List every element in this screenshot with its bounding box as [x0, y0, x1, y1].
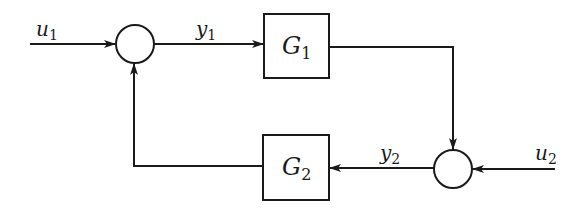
block-g1: G1 — [264, 14, 329, 78]
y1-label: y1 — [195, 17, 216, 43]
block-g2: G2 — [263, 135, 329, 200]
g1-output-path — [329, 47, 453, 149]
u2-label: u2 — [535, 141, 557, 167]
y2-label: y2 — [379, 141, 400, 167]
summing-junction-2 — [434, 150, 472, 188]
u1-label: u1 — [36, 17, 58, 43]
feedback-path — [134, 64, 263, 166]
summing-junction-1 — [116, 25, 154, 63]
block-diagram: u1 y1 G1 u2 y2 G2 — [0, 0, 585, 217]
